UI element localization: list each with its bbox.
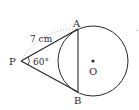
tangent-PB [21, 61, 78, 92]
angle-arc-P [28, 57, 30, 65]
label-B: B [74, 95, 81, 106]
label-A: A [72, 18, 81, 29]
label-angle-P: 60° [33, 57, 49, 67]
label-length-PA: 7 cm [30, 34, 53, 44]
label-O: O [89, 66, 97, 77]
tick-mark [136, 30, 138, 31]
center-dot-O [91, 59, 94, 62]
tangent-diagram: A B P O 7 cm 60° [0, 0, 139, 110]
label-P: P [9, 56, 16, 67]
